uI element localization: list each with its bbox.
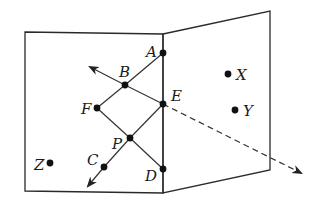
point-label: C [87,151,99,169]
point-dot-icon [47,160,54,167]
points-group: ABEFPCDXYZ [33,43,255,185]
point-label: Y [243,102,255,120]
segment-BF [97,85,125,108]
point-label: P [111,135,123,153]
point-dot-icon [101,164,108,171]
diagram-canvas: ABEFPCDXYZ [0,0,313,204]
segment-FP [97,108,130,138]
point-Y: Y [232,102,255,120]
point-X: X [225,66,248,84]
point-label: E [170,87,182,105]
point-dot-icon [94,105,101,112]
point-label: B [118,63,130,81]
point-dot-icon [127,135,134,142]
point-label: Z [33,156,45,174]
point-dot-icon [122,82,129,89]
point-dot-icon [160,50,167,57]
point-label: A [144,43,157,61]
point-B: B [118,63,130,88]
point-dot-icon [225,71,232,78]
planes-group [25,11,270,193]
point-dot-icon [160,166,167,173]
segment-EP [130,104,163,138]
point-label: F [80,100,92,118]
point-dot-icon [232,107,239,114]
point-dot-icon [160,101,167,108]
point-label: D [144,167,157,185]
ray-B-E-extended-arrow-icon [163,104,301,173]
point-P: P [111,135,133,153]
ray-P-C-arrow-icon [88,167,104,186]
segment-AB [125,53,163,85]
rays-group [88,67,301,186]
segment-BE [125,85,163,104]
point-label: X [235,66,248,84]
point-F: F [80,100,100,118]
point-Z: Z [33,156,53,174]
segment-PD [130,138,163,169]
point-C: C [87,151,107,170]
